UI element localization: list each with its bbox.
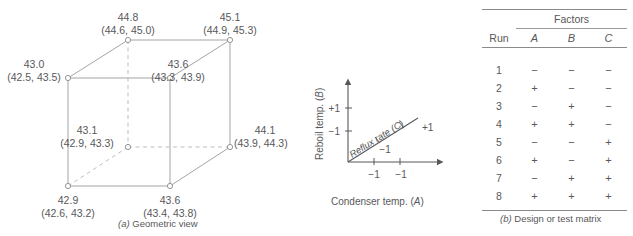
- vertex-label-front-bottom-right: 43.6 (43.4, 43.8): [124, 194, 216, 219]
- caption-text-a: Geometric view: [130, 218, 198, 229]
- y-tick-label-plus1: +1: [329, 103, 341, 114]
- table-row: 4 + + −: [482, 115, 627, 133]
- cell-run: 4: [482, 115, 516, 133]
- vertex-label-front-bottom-left: 42.9 (42.6, 43.2): [22, 194, 114, 219]
- cell-run: 5: [482, 133, 516, 151]
- caption-panel-b: (b) Design or test matrix: [500, 213, 601, 224]
- vertex-label-front-top-left: 43.0 (42.5, 43.5): [0, 58, 74, 83]
- x-axis-title: Condenser temp. (A): [331, 196, 424, 207]
- caption-marker-a: (a): [118, 218, 130, 229]
- cell-run: 6: [482, 151, 516, 169]
- y-axis-title: Reboil temp. (B): [314, 88, 325, 160]
- vertex-back-bottom-right: [227, 144, 232, 149]
- vertex-back-top-left: [125, 37, 130, 42]
- table-body: 1 − − − 2 + − − 3 − + − 4 + + −: [482, 48, 627, 211]
- cube-edge-depth-bottom-left-hidden: [68, 147, 128, 186]
- z-tick-label-plus1: +1: [422, 122, 434, 133]
- x-tick-label-plus1: −1: [395, 169, 407, 180]
- cell-factor-c: +: [590, 187, 627, 211]
- cell-run: 2: [482, 79, 516, 97]
- caption-panel-a: (a) Geometric view: [118, 218, 198, 229]
- z-tick-label-minus1: −1: [379, 144, 391, 155]
- cell-factor-c: +: [590, 133, 627, 151]
- table-row: 1 − − −: [482, 55, 627, 79]
- panel-geometric-view: 44.8 (44.6, 45.0) 45.1 (44.9, 45.3) 43.0…: [0, 0, 300, 236]
- cell-run: 8: [482, 187, 516, 211]
- cell-factor-c: −: [590, 97, 627, 115]
- cell-factor-b: −: [553, 133, 590, 151]
- cell-factor-c: −: [590, 55, 627, 79]
- cube-edge-depth-bottom-right: [170, 147, 230, 186]
- cell-run: 3: [482, 97, 516, 115]
- cell-run: 1: [482, 55, 516, 79]
- column-header-run: Run: [482, 29, 516, 48]
- cell-run: 7: [482, 169, 516, 187]
- table-column-header-row: Run A B C: [482, 29, 627, 48]
- vertex-back-top-right: [227, 37, 232, 42]
- column-header-c: C: [590, 29, 627, 48]
- cell-factor-a: +: [516, 79, 553, 97]
- vertex-label-back-bottom-right: 44.1 (43.9, 44.3): [234, 124, 306, 149]
- vertex-label-front-top-right: 43.6 (43.3, 43.9): [128, 58, 228, 83]
- cell-factor-c: +: [590, 151, 627, 169]
- cell-factor-b: −: [553, 79, 590, 97]
- cell-factor-c: −: [590, 79, 627, 97]
- group-header-factors: Factors: [516, 10, 627, 29]
- table-head: Factors Run A B C: [482, 10, 627, 48]
- vertex-front-bottom-left: [65, 183, 70, 188]
- x-tick-label-minus1: −1: [368, 169, 380, 180]
- y-tick-label-minus1: −1: [329, 126, 341, 137]
- column-header-b: B: [553, 29, 590, 48]
- panel-design-matrix: Factors Run A B C 1 − − − 2 + −: [476, 0, 633, 236]
- table-row: 6 + − +: [482, 151, 627, 169]
- cell-factor-b: +: [553, 169, 590, 187]
- vertex-label-back-bottom-left: 43.1 (42.9, 43.3): [46, 124, 128, 149]
- cell-factor-a: +: [516, 115, 553, 133]
- table-row: 8 + + +: [482, 187, 627, 211]
- group-header-blank: [482, 10, 516, 29]
- cell-factor-b: +: [553, 115, 590, 133]
- cell-factor-a: −: [516, 97, 553, 115]
- cell-factor-a: +: [516, 151, 553, 169]
- z-axis-title: Reflux rate (C): [347, 118, 405, 160]
- table-row: 2 + − −: [482, 79, 627, 97]
- cell-factor-a: −: [516, 133, 553, 151]
- cell-factor-b: +: [553, 97, 590, 115]
- design-matrix-table: Factors Run A B C 1 − − − 2 + −: [482, 9, 627, 211]
- table-group-header-row: Factors: [482, 10, 627, 29]
- table-spacer-row: [482, 48, 627, 56]
- table-row: 5 − − +: [482, 133, 627, 151]
- vertex-label-back-top-left: 44.8 (44.6, 45.0): [78, 11, 178, 36]
- vertex-label-back-top-right: 45.1 (44.9, 45.3): [180, 11, 280, 36]
- cell-factor-c: +: [590, 169, 627, 187]
- cell-factor-a: −: [516, 169, 553, 187]
- table-row: 7 − + +: [482, 169, 627, 187]
- cell-factor-c: −: [590, 115, 627, 133]
- column-header-a: A: [516, 29, 553, 48]
- cell-factor-a: −: [516, 55, 553, 79]
- cell-factor-b: −: [553, 55, 590, 79]
- caption-text-b: Design or test matrix: [512, 213, 602, 224]
- vertex-front-bottom-right: [167, 183, 172, 188]
- cube-edge-depth-top-left: [68, 40, 128, 78]
- cell-factor-a: +: [516, 187, 553, 211]
- cube-back-face: [128, 40, 230, 147]
- cell-factor-b: −: [553, 151, 590, 169]
- cell-factor-b: +: [553, 187, 590, 211]
- table-row: 3 − + −: [482, 97, 627, 115]
- caption-marker-b: (b): [500, 213, 512, 224]
- panel-axis-sketch: +1 −1 −1 −1 −1 +1 Reflux rate (C) Reboil…: [300, 0, 475, 236]
